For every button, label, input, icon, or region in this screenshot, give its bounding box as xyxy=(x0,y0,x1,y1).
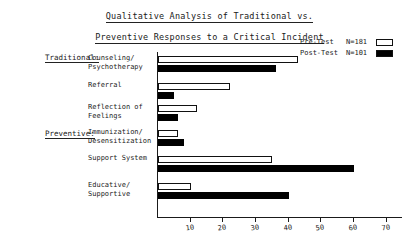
chart-title-line-2: Preventive Responses to a Critical Incid… xyxy=(95,31,324,44)
legend-n-pre-test: N=181 xyxy=(346,38,376,48)
category-label-line: Referral xyxy=(88,81,122,90)
bar-pre-test xyxy=(158,156,272,163)
category-label: Support System xyxy=(88,154,147,163)
category-label: Referral xyxy=(88,81,122,90)
category-label-line: Feelings xyxy=(88,112,143,121)
x-axis-tick-label: 30 xyxy=(250,223,259,232)
bar-pre-test xyxy=(158,56,298,63)
open-square-icon xyxy=(376,39,393,46)
category-label-line: Immunization/ xyxy=(88,128,151,137)
category-label: Reflection ofFeelings xyxy=(88,103,143,121)
bar-pre-test xyxy=(158,130,178,137)
category-label-line: Reflection of xyxy=(88,103,143,112)
x-axis-tick xyxy=(255,218,256,222)
bar-post-test xyxy=(158,139,184,146)
x-axis-tick-label: 60 xyxy=(348,223,357,232)
bar-post-test xyxy=(158,92,174,99)
bar-pre-test xyxy=(158,105,197,112)
plot-area: 10203040506070 xyxy=(157,52,402,220)
bar-pre-test xyxy=(158,183,191,190)
category-label-line: Psychotherapy xyxy=(88,63,143,72)
x-axis-tick xyxy=(386,218,387,222)
x-axis-line xyxy=(157,217,402,218)
x-axis-tick xyxy=(320,218,321,222)
bar-pre-test xyxy=(158,83,230,90)
category-label-line: Supportive xyxy=(88,190,130,199)
chart-figure: Qualitative Analysis of Traditional vs. … xyxy=(0,0,419,248)
category-label-line: Support System xyxy=(88,154,147,163)
x-axis-tick-label: 10 xyxy=(185,223,194,232)
bar-post-test xyxy=(158,114,178,121)
x-axis-tick xyxy=(353,218,354,222)
category-label: Educative/Supportive xyxy=(88,181,130,199)
legend-item-pre-test: Pre-Test N=181 xyxy=(300,38,393,48)
bar-post-test xyxy=(158,165,354,172)
bar-post-test xyxy=(158,65,276,72)
bar-post-test xyxy=(158,192,289,199)
category-label: Counseling/Psychotherapy xyxy=(88,54,143,72)
x-axis-tick xyxy=(288,218,289,222)
x-axis-tick-label: 40 xyxy=(283,223,292,232)
chart-title-line-1: Qualitative Analysis of Traditional vs. xyxy=(106,10,313,23)
x-axis-tick xyxy=(190,218,191,222)
category-label: Immunization/Desensitization xyxy=(88,128,151,146)
x-axis-tick-label: 20 xyxy=(218,223,227,232)
x-axis-tick xyxy=(222,218,223,222)
legend-label-pre-test: Pre-Test xyxy=(300,38,346,48)
x-axis-tick-label: 50 xyxy=(316,223,325,232)
category-label-line: Desensitization xyxy=(88,137,151,146)
x-axis-tick-label: 70 xyxy=(381,223,390,232)
category-label-line: Educative/ xyxy=(88,181,130,190)
category-label-line: Counseling/ xyxy=(88,54,143,63)
